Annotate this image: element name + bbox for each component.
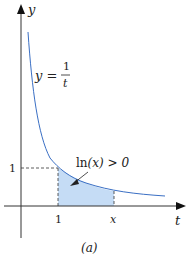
curve-one-over-t bbox=[28, 32, 165, 196]
x-tick-x: x bbox=[110, 213, 117, 226]
curve-label-numerator: 1 bbox=[63, 60, 70, 73]
x-axis-label: t bbox=[175, 213, 181, 228]
x-axis-arrow-icon bbox=[176, 202, 186, 210]
y-axis-label: y bbox=[27, 2, 36, 17]
y-axis-arrow-icon bbox=[17, 4, 25, 14]
area-label-ln: ln bbox=[76, 156, 88, 170]
x-tick-1: 1 bbox=[55, 213, 62, 226]
curve-label-lhs: y = bbox=[34, 68, 57, 83]
curve-label-denominator: t bbox=[63, 77, 68, 90]
figure-caption: (a) bbox=[81, 241, 98, 255]
ln-area-diagram: y t 1 1 x y = 1 t ln(x) > 0 (a) bbox=[0, 0, 187, 261]
y-tick-1: 1 bbox=[9, 162, 16, 175]
area-label: ln(x) > 0 bbox=[76, 156, 129, 170]
area-label-arg: (x) > 0 bbox=[88, 156, 130, 170]
